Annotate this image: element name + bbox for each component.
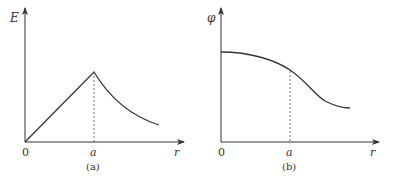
panel-a-tick-a: a: [90, 146, 97, 159]
panel-a-origin-label: 0: [22, 146, 29, 159]
panel-b-origin-label: 0: [218, 146, 225, 159]
panel-b-caption: (b): [282, 161, 296, 172]
panel-a-curve: [25, 72, 159, 142]
panel-b-x-label: r: [370, 146, 376, 159]
panel-a-y-label: E: [9, 11, 19, 25]
panel-b-curve: [221, 52, 350, 108]
panel-b-tick-a: a: [286, 146, 293, 159]
panel-a: E 0 a r (a): [9, 8, 184, 172]
panel-a-caption: (a): [86, 161, 100, 172]
panel-b: φ 0 a r (b): [207, 8, 379, 172]
panel-b-y-label: φ: [207, 11, 216, 25]
panel-a-x-label: r: [174, 146, 180, 159]
figure-canvas: E 0 a r (a) φ 0 a r (b): [0, 0, 395, 178]
